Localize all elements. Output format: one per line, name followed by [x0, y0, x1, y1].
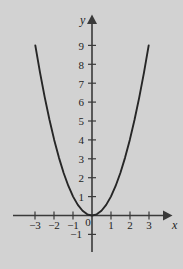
y-tick-label-2: 2: [70, 173, 84, 184]
y-tick-label-9: 9: [70, 41, 84, 52]
y-tick-label-8: 8: [70, 60, 84, 71]
x-tick-label-0: 0: [81, 217, 95, 228]
y-tick-label-5: 5: [70, 116, 84, 127]
y-tick-label-6: 6: [70, 97, 84, 108]
x-tick-label-minus-2: −2: [47, 220, 61, 231]
y-tick-label-1: 1: [70, 192, 84, 203]
y-tick-label-7: 7: [70, 79, 84, 90]
y-axis-label: y: [80, 14, 85, 26]
graph-figure: 9 8 7 6 5 4 3 2 1 −1 −3 −2 −1 0 1 2 3 y …: [0, 0, 183, 269]
x-tick-label-minus-1: −1: [66, 220, 80, 231]
x-tick-label-minus-3: −3: [28, 220, 42, 231]
x-tick-label-3: 3: [142, 220, 156, 231]
x-axis-label: x: [172, 219, 177, 231]
y-tick-label-3: 3: [70, 154, 84, 165]
y-tick-label-4: 4: [70, 135, 84, 146]
x-tick-label-1: 1: [104, 220, 118, 231]
y-axis-arrowhead: [87, 15, 97, 25]
x-tick-label-2: 2: [123, 220, 137, 231]
